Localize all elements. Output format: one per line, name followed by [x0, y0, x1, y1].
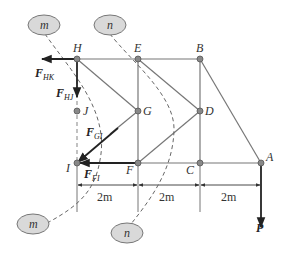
node-label-D: D: [204, 104, 214, 118]
node-label-E: E: [133, 41, 142, 55]
node-A: [258, 160, 264, 166]
section-label-n-top: n: [94, 15, 126, 35]
node-I: [74, 160, 80, 166]
svg-text:n: n: [124, 226, 130, 240]
dimension-label-1: 2m: [97, 190, 113, 204]
node-label-J: J: [83, 104, 89, 118]
section-label-m-bottom: m: [17, 214, 49, 234]
member-FG-diag: [138, 111, 200, 163]
node-label-A: A: [265, 150, 274, 164]
truss-diagram: 2m 2m 2m m n m n FHK FHJ FGI FFI P: [0, 0, 288, 258]
node-label-C: C: [186, 163, 195, 177]
node-C: [197, 160, 203, 166]
node-J: [74, 108, 80, 114]
force-label-F-FI: FFI: [83, 167, 100, 183]
dimension-label-3: 2m: [221, 190, 237, 204]
node-label-B: B: [196, 41, 204, 55]
force-label-P: P: [256, 221, 264, 235]
truss-members: [77, 59, 261, 163]
extension-lines: [77, 163, 200, 212]
svg-text:m: m: [40, 18, 49, 32]
node-F: [135, 160, 141, 166]
force-label-F-GI: FGI: [85, 125, 103, 141]
force-label-F-HJ: FHJ: [55, 86, 74, 102]
svg-text:n: n: [107, 18, 113, 32]
node-D: [197, 108, 203, 114]
force-label-F-HK: FHK: [34, 66, 55, 82]
svg-text:m: m: [29, 217, 38, 231]
node-label-G: G: [143, 104, 152, 118]
truss-nodes: [74, 56, 264, 166]
node-G: [135, 108, 141, 114]
section-label-n-bottom: n: [111, 223, 143, 243]
node-H: [74, 56, 80, 62]
node-label-H: H: [72, 41, 83, 55]
node-E: [135, 56, 141, 62]
node-B: [197, 56, 203, 62]
node-label-F: F: [125, 163, 134, 177]
dimension-label-2: 2m: [159, 190, 175, 204]
section-label-m-top: m: [28, 15, 60, 35]
node-label-I: I: [65, 161, 71, 175]
